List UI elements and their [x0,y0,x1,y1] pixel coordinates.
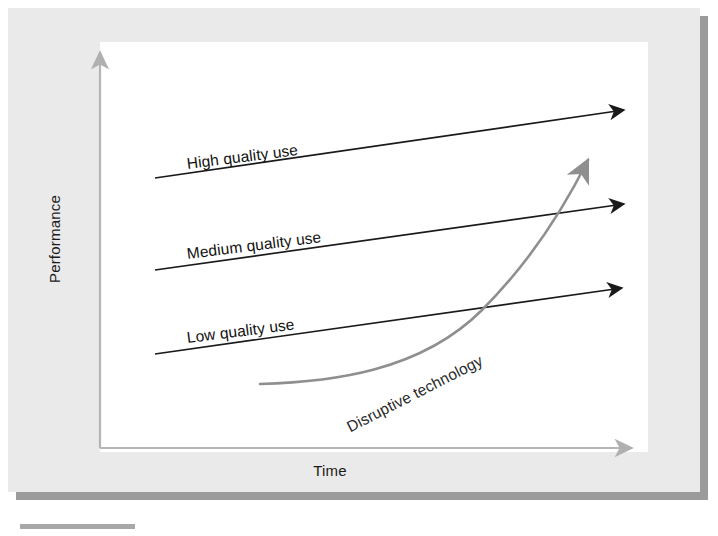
x-axis-title: Time [313,462,347,479]
figure-root: Performance Time High quality use Medium… [0,0,718,536]
y-axis-title: Performance [46,195,63,283]
series-line-low-quality-use [155,288,622,354]
series-curve-disruptive-technology [260,160,588,384]
chart-svg [0,0,718,536]
series-line-medium-quality-use [155,204,624,270]
